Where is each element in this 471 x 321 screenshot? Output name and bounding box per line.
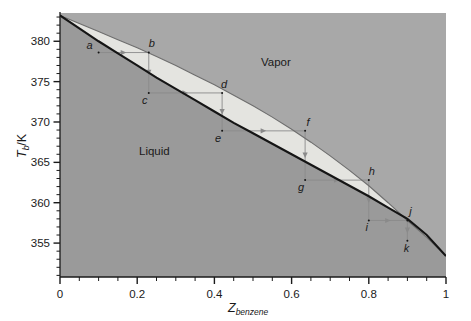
- x-axis-tick-label: 0: [57, 288, 63, 300]
- point-label-a: a: [87, 39, 93, 51]
- y-axis-tick-label: 360: [31, 197, 50, 209]
- point-marker-e: [221, 130, 223, 132]
- phase-diagram-svg: 35536036537037538000.20.40.60.81 abcdefg…: [0, 0, 471, 321]
- point-marker-h: [368, 179, 370, 181]
- x-axis-title-sub: benzene: [236, 307, 269, 317]
- point-marker-j: [406, 219, 408, 221]
- point-label-c: c: [142, 94, 148, 106]
- y-axis-tick-label: 380: [31, 35, 50, 47]
- point-label-h: h: [369, 165, 375, 177]
- point-label-k: k: [404, 242, 410, 254]
- point-label-e: e: [215, 132, 221, 144]
- point-label-d: d: [221, 78, 228, 90]
- region-label-vapor: Vapor: [261, 56, 291, 68]
- point-marker-a: [98, 52, 100, 54]
- point-label-g: g: [298, 181, 305, 193]
- y-axis-title-unit: /K: [15, 133, 29, 145]
- y-axis-tick-label: 365: [31, 156, 50, 168]
- point-marker-b: [148, 52, 150, 54]
- point-marker-f: [304, 130, 306, 132]
- x-axis-tick-label: 1: [443, 288, 449, 300]
- y-axis-title: Tb/K: [15, 133, 31, 158]
- y-axis-tick-label: 375: [31, 76, 50, 88]
- x-axis-tick-label: 0.2: [129, 288, 145, 300]
- y-axis-tick-label: 355: [31, 237, 50, 249]
- point-marker-i: [368, 219, 370, 221]
- plot-area: [60, 13, 446, 277]
- x-axis-title-main: Z: [227, 301, 236, 315]
- point-marker-c: [148, 92, 150, 94]
- x-axis-tick-label: 0.8: [361, 288, 377, 300]
- point-label-b: b: [149, 37, 155, 49]
- x-axis-tick-label: 0.6: [284, 288, 300, 300]
- point-marker-d: [221, 92, 223, 94]
- boiling-point-diagram-figure: 35536036537037538000.20.40.60.81 abcdefg…: [0, 0, 471, 321]
- x-axis-tick-label: 0.4: [206, 288, 223, 300]
- y-axis-tick-label: 370: [31, 116, 50, 128]
- region-label-liquid: Liquid: [139, 145, 170, 157]
- point-marker-g: [304, 179, 306, 181]
